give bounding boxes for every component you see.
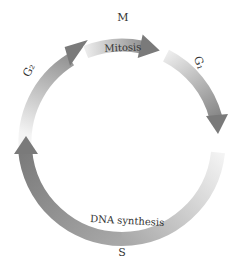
label-dna-synthesis: DNA synthesis — [90, 213, 165, 228]
cell-cycle-diagram: M Mitosis G₁ DNA synthesis S G₂ — [0, 0, 244, 265]
label-s: S — [118, 246, 126, 259]
label-mitosis: Mitosis — [104, 41, 141, 53]
label-g2: G₂ — [20, 61, 38, 79]
label-m: M — [117, 11, 128, 24]
arrow-g2 — [25, 37, 88, 154]
